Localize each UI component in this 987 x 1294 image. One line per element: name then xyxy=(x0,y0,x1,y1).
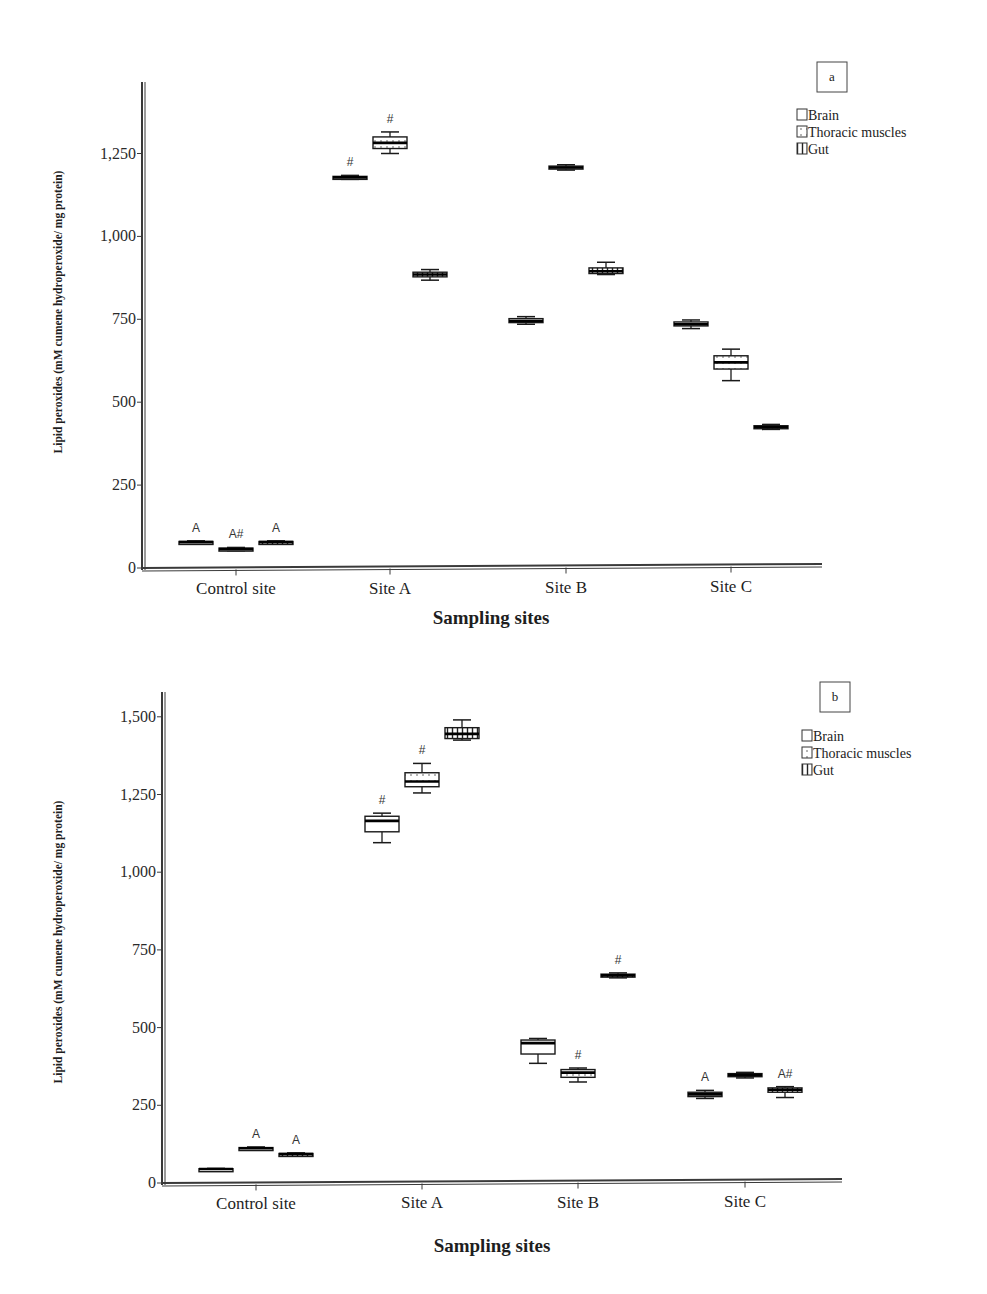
y-tick-label: 1,000 xyxy=(120,863,156,880)
x-category-label: Site A xyxy=(369,579,412,598)
legend-swatch-thoracic xyxy=(797,126,807,137)
boxes-b: #AA##A#A# xyxy=(199,720,802,1172)
x-category-label: Site A xyxy=(401,1193,444,1212)
x-category-label: Site C xyxy=(710,577,752,596)
box-brain: A xyxy=(688,1070,722,1098)
x-axis-a: Control siteSite ASite BSite C xyxy=(142,564,822,598)
box-gut: A xyxy=(259,521,293,545)
box-gut xyxy=(589,262,623,274)
y-tick-label: 1,250 xyxy=(120,786,156,803)
significance-annotation: A xyxy=(192,521,200,535)
chart-panel-b: 02505007501,0001,2501,500 Control siteSi… xyxy=(0,640,987,1294)
significance-annotation: A# xyxy=(229,527,244,541)
y-tick-label: 250 xyxy=(112,476,136,493)
significance-annotation: A# xyxy=(778,1067,793,1081)
y-tick-label: 250 xyxy=(132,1096,156,1113)
box-thoracic-muscles xyxy=(728,1072,762,1078)
y-tick-label: 1,250 xyxy=(100,145,136,162)
legend-label-gut: Gut xyxy=(813,763,834,778)
box-thoracic-muscles: # xyxy=(405,743,439,793)
x-category-label: Site B xyxy=(545,578,587,597)
chart-panel-a: 02505007501,0001,250 Control siteSite AS… xyxy=(0,0,987,640)
box-gut: A# xyxy=(768,1067,802,1098)
y-tick-label: 0 xyxy=(148,1174,156,1191)
x-category-label: Control site xyxy=(196,579,276,598)
box-gut: # xyxy=(601,953,635,978)
legend-swatch-brain xyxy=(797,109,807,120)
significance-annotation: # xyxy=(575,1048,582,1062)
significance-annotation: # xyxy=(419,743,426,757)
y-axis-a: 02505007501,0001,250 xyxy=(100,82,145,576)
legend-swatch-thoracic xyxy=(802,747,812,758)
box-thoracic-muscles: # xyxy=(373,112,407,154)
significance-annotation: A xyxy=(252,1127,260,1141)
y-tick-label: 1,500 xyxy=(120,708,156,725)
significance-annotation: # xyxy=(347,155,354,169)
chart-b-svg: 02505007501,0001,2501,500 Control siteSi… xyxy=(0,640,987,1294)
significance-annotation: A xyxy=(292,1133,300,1147)
box-brain: A xyxy=(179,521,213,545)
legend-label-thoracic: Thoracic muscles xyxy=(808,125,906,140)
box-brain: # xyxy=(333,155,367,179)
x-axis-title-b: Sampling sites xyxy=(434,1235,551,1256)
legend-label-thoracic: Thoracic muscles xyxy=(813,746,911,761)
box-thoracic-muscles: # xyxy=(561,1048,595,1082)
significance-annotation: # xyxy=(387,112,394,126)
x-axis-b: Control siteSite ASite BSite C xyxy=(162,1179,842,1213)
box-brain: # xyxy=(365,793,399,843)
x-category-label: Site C xyxy=(724,1192,766,1211)
y-tick-label: 750 xyxy=(132,941,156,958)
box-brain xyxy=(199,1168,233,1171)
box-brain xyxy=(521,1038,555,1063)
y-axis-b: 02505007501,0001,2501,500 xyxy=(120,692,165,1191)
y-tick-label: 500 xyxy=(132,1019,156,1036)
significance-annotation: A xyxy=(272,521,280,535)
boxes-a: A#A##A xyxy=(179,112,788,551)
y-axis-title-b: Lipid peroxides (mM cumene hydroperoxide… xyxy=(52,800,65,1083)
box-gut: A xyxy=(279,1133,313,1157)
significance-annotation: # xyxy=(615,953,622,967)
panel-tag-b: b xyxy=(820,682,850,712)
legend-swatch-gut xyxy=(802,764,812,775)
significance-annotation: A xyxy=(701,1070,709,1084)
box-gut xyxy=(445,720,479,740)
x-category-label: Control site xyxy=(216,1194,296,1213)
x-category-label: Site B xyxy=(557,1193,599,1212)
svg-text:a: a xyxy=(829,69,835,84)
box-thoracic-muscles xyxy=(714,349,748,381)
svg-text:b: b xyxy=(832,689,839,704)
legend-b: Brain Thoracic muscles Gut xyxy=(802,729,911,778)
y-tick-label: 750 xyxy=(112,310,136,327)
box-brain xyxy=(674,320,708,329)
x-axis-title-a: Sampling sites xyxy=(433,607,550,628)
legend-swatch-brain xyxy=(802,730,812,741)
box-gut xyxy=(754,424,788,429)
legend-label-gut: Gut xyxy=(808,142,829,157)
box-brain xyxy=(509,317,543,325)
y-tick-label: 500 xyxy=(112,393,136,410)
box-thoracic-muscles: A xyxy=(239,1127,273,1151)
significance-annotation: # xyxy=(379,793,386,807)
legend-swatch-gut xyxy=(797,143,807,154)
box-thoracic-muscles: A# xyxy=(219,527,253,551)
y-tick-label: 0 xyxy=(128,559,136,576)
legend-label-brain: Brain xyxy=(808,108,839,123)
box-gut xyxy=(413,270,447,281)
panel-tag-a: a xyxy=(817,62,847,92)
y-tick-label: 1,000 xyxy=(100,227,136,244)
legend-label-brain: Brain xyxy=(813,729,844,744)
y-axis-title-a: Lipid peroxides (mM cumene hydroperoxide… xyxy=(52,170,65,453)
box-thoracic-muscles xyxy=(549,165,583,170)
chart-a-svg: 02505007501,0001,250 Control siteSite AS… xyxy=(0,0,987,640)
legend-a: Brain Thoracic muscles Gut xyxy=(797,108,906,157)
